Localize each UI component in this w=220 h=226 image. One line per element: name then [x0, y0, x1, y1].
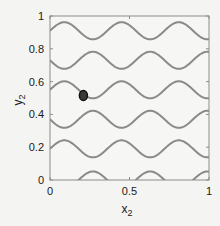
y-tick-label: 0.4 [29, 108, 44, 120]
y-tick-label: 1 [38, 10, 44, 22]
x-tick-label: 0 [47, 185, 53, 197]
x-tick-label: 1 [206, 185, 212, 197]
y-tick-label: 0.2 [29, 141, 44, 153]
x-tick-label: 0.5 [122, 185, 137, 197]
markers [79, 91, 87, 101]
y-tick-label: 0.6 [29, 76, 44, 88]
chart: 00.20.40.60.81 00.51 x2 y2 [0, 0, 220, 226]
y-axis-label: y2 [11, 94, 27, 105]
y-tick-label: 0.8 [29, 43, 44, 55]
marker-point [79, 91, 87, 101]
plot-area [50, 16, 209, 180]
y-tick-label: 0 [38, 174, 44, 186]
x-axis-label: x2 [121, 202, 132, 218]
